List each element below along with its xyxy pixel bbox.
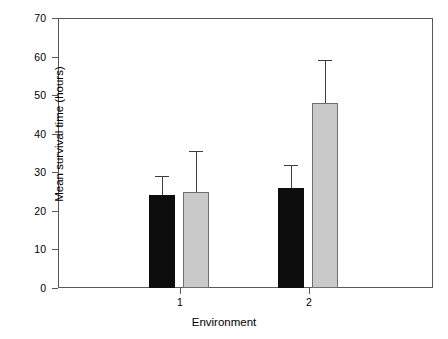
x-tick-mark xyxy=(309,288,310,294)
y-tick-label: 50 xyxy=(6,89,46,101)
error-bar-line xyxy=(291,165,292,188)
y-tick-mark xyxy=(52,95,58,96)
y-tick-mark xyxy=(52,249,58,250)
x-tick-label: 2 xyxy=(289,296,329,308)
bar-light-env2 xyxy=(312,103,338,288)
error-bar-cap xyxy=(284,165,298,166)
x-tick-mark xyxy=(180,288,181,294)
y-tick-mark xyxy=(52,172,58,173)
y-axis: Mean survival time (hours) xyxy=(0,0,448,339)
bar-chart-figure: Mean survival time (hours) 0102030405060… xyxy=(0,0,448,339)
error-bar-line xyxy=(196,151,197,192)
y-tick-label: 70 xyxy=(6,12,46,24)
error-bar-line xyxy=(325,60,326,102)
error-bar-cap xyxy=(155,176,169,177)
y-tick-label: 20 xyxy=(6,205,46,217)
x-tick-label: 1 xyxy=(160,296,200,308)
error-bar-cap xyxy=(318,60,332,61)
bar-dark-env1 xyxy=(149,195,175,288)
bar-dark-env2 xyxy=(278,188,304,288)
error-bar-cap xyxy=(189,151,203,152)
y-tick-label: 30 xyxy=(6,166,46,178)
y-tick-mark xyxy=(52,211,58,212)
y-tick-label: 0 xyxy=(6,282,46,294)
y-tick-mark xyxy=(52,288,58,289)
y-tick-label: 10 xyxy=(6,243,46,255)
y-tick-label: 60 xyxy=(6,51,46,63)
y-tick-mark xyxy=(52,134,58,135)
x-axis-title: Environment xyxy=(0,316,448,328)
y-tick-label: 40 xyxy=(6,128,46,140)
bar-light-env1 xyxy=(183,192,209,288)
y-tick-mark xyxy=(52,57,58,58)
error-bar-line xyxy=(162,176,163,195)
y-tick-mark xyxy=(52,18,58,19)
